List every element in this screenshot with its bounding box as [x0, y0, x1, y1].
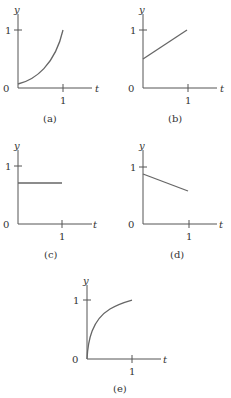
origin-label: 0 — [128, 83, 134, 94]
graph-b: y 1 0 t 1 (b) — [128, 4, 225, 124]
y-axis-label: y — [138, 4, 145, 15]
x-tick-1: 1 — [129, 366, 135, 377]
graph-e: y 1 0 t 1 (e) — [72, 275, 168, 394]
origin-label: 0 — [72, 354, 78, 365]
graph-c: y 1 0 t 1 (c) — [3, 140, 98, 260]
y-axis-label: y — [138, 140, 145, 151]
caption-a: (a) — [43, 113, 57, 124]
x-tick-1: 1 — [185, 95, 191, 106]
caption-b: (b) — [168, 113, 182, 124]
graph-a: y 1 0 t 1 (a) — [3, 4, 100, 124]
x-axis-label: t — [163, 354, 168, 365]
y-axis-label: y — [13, 140, 20, 151]
y-axis-label: y — [13, 4, 20, 15]
origin-label: 0 — [3, 219, 9, 230]
y-tick-1: 1 — [130, 25, 136, 36]
graph-d: y 1 0 t 1 (d) — [128, 140, 224, 260]
x-axis-label: t — [95, 83, 100, 94]
x-axis-label: t — [220, 83, 225, 94]
x-tick-1: 1 — [186, 231, 192, 242]
x-tick-1: 1 — [60, 95, 66, 106]
origin-label: 0 — [128, 219, 134, 230]
y-tick-1: 1 — [5, 25, 11, 36]
x-tick-1: 1 — [59, 231, 65, 242]
x-axis-label: t — [219, 219, 224, 230]
origin-label: 0 — [3, 83, 9, 94]
y-tick-1: 1 — [5, 161, 11, 172]
graphs-figure: y 1 0 t 1 (a) y 1 0 t 1 (b) y 1 0 t 1 (c… — [0, 0, 231, 398]
caption-c: (c) — [44, 249, 58, 260]
y-axis-label: y — [82, 275, 89, 286]
caption-e: (e) — [113, 383, 127, 394]
x-axis-label: t — [93, 219, 98, 230]
y-tick-1: 1 — [73, 295, 79, 306]
y-tick-1: 1 — [130, 162, 136, 173]
caption-d: (d) — [170, 249, 184, 260]
